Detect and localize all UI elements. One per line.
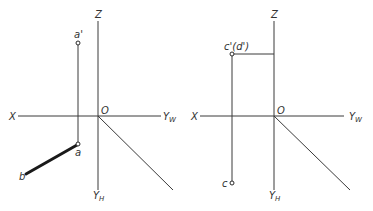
- right-label-z: Z: [270, 9, 279, 20]
- projection-diagrams: Z a' X O YW a b YH Z c'(d') X O YW c YH: [0, 0, 373, 211]
- right-45-diagonal: [274, 116, 350, 190]
- left-label-origin: O: [101, 105, 109, 116]
- point-c-prime-d-prime: [230, 52, 234, 56]
- left-label-b: b: [19, 171, 25, 182]
- left-label-yw: YW: [163, 111, 177, 124]
- right-label-x: X: [190, 111, 199, 122]
- point-a-prime: [76, 41, 80, 45]
- left-label-a-prime: a': [74, 29, 83, 40]
- right-label-yw: YW: [349, 111, 363, 124]
- left-label-a: a: [75, 147, 81, 158]
- line-ab: [26, 145, 77, 174]
- right-label-c: c: [222, 178, 228, 189]
- left-label-z: Z: [94, 9, 103, 20]
- point-a: [76, 142, 80, 146]
- point-c: [230, 181, 234, 185]
- right-label-origin: O: [277, 105, 285, 116]
- left-diagram: Z a' X O YW a b YH: [8, 9, 177, 203]
- right-label-c-prime-d-prime: c'(d'): [224, 41, 249, 52]
- right-label-yh: YH: [269, 190, 281, 203]
- right-diagram: Z c'(d') X O YW c YH: [190, 9, 363, 203]
- left-label-yh: YH: [93, 190, 105, 203]
- left-label-x: X: [8, 111, 17, 122]
- left-45-diagonal: [98, 116, 173, 190]
